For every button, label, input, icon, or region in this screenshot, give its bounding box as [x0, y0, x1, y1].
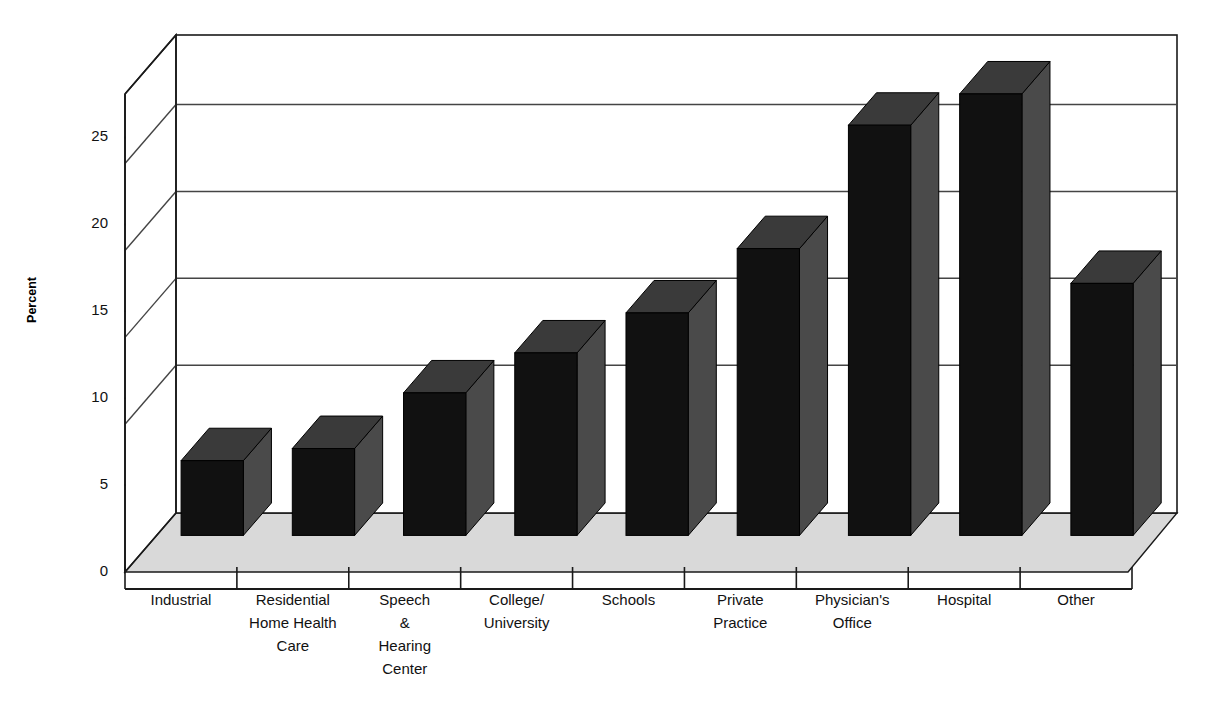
- y-tick-label-2: 10: [91, 388, 108, 405]
- bar-side-face: [688, 280, 716, 535]
- y-tick-label-0: 0: [100, 562, 108, 579]
- bar-side-face: [577, 320, 605, 535]
- x-category-label-0: Industrial: [151, 591, 212, 608]
- x-category-label-3: College/University: [484, 591, 550, 631]
- wall-top-depth-edge: [125, 35, 176, 94]
- bar-2: [404, 360, 494, 535]
- bar-8: [1071, 251, 1161, 535]
- bar-4: [626, 280, 716, 535]
- x-category-label-6: Physician'sOffice: [815, 591, 890, 631]
- bar-6: [848, 93, 938, 536]
- x-category-label-4: Schools: [602, 591, 655, 608]
- bar-7: [960, 61, 1050, 535]
- bar-front-face: [626, 313, 688, 535]
- chart-canvas: 0510152025 IndustrialResidentialHome Hea…: [0, 0, 1210, 703]
- y-tick-labels: 0510152025: [91, 127, 126, 579]
- gridline-depth-1: [125, 278, 176, 337]
- x-category-label-2: Speech&HearingCenter: [378, 591, 431, 677]
- chart-frame: [125, 35, 176, 572]
- gridline-depth-0: [125, 365, 176, 424]
- left-side-panel: [125, 35, 176, 572]
- y-axis-title-text: Percent: [25, 276, 39, 323]
- bar-side-face: [799, 216, 827, 535]
- y-axis-title: Percent: [25, 276, 39, 323]
- bar-1: [292, 416, 382, 535]
- bar-chart-3d: 0510152025 IndustrialResidentialHome Hea…: [0, 0, 1210, 703]
- bar-0: [181, 428, 271, 535]
- bar-side-face: [911, 93, 939, 536]
- x-category-label-8: Other: [1057, 591, 1095, 608]
- gridline-depth-3: [125, 105, 176, 164]
- x-category-label-7: Hospital: [937, 591, 991, 608]
- bar-front-face: [515, 353, 577, 536]
- bar-front-face: [292, 449, 354, 536]
- bar-5: [737, 216, 827, 535]
- bar-front-face: [737, 249, 799, 536]
- y-tick-label-4: 20: [91, 214, 108, 231]
- y-tick-label-3: 15: [91, 301, 108, 318]
- bar-side-face: [1022, 61, 1050, 535]
- x-category-label-1: ResidentialHome HealthCare: [249, 591, 337, 654]
- bar-side-face: [1133, 251, 1161, 535]
- y-tick-label-1: 5: [100, 475, 108, 492]
- bar-front-face: [404, 393, 466, 536]
- bar-front-face: [181, 461, 243, 536]
- gridline-depth-2: [125, 191, 176, 250]
- bar-front-face: [1071, 283, 1133, 535]
- x-category-label-5: PrivatePractice: [713, 591, 767, 631]
- bar-front-face: [848, 125, 910, 535]
- x-tick-labels: IndustrialResidentialHome HealthCareSpee…: [151, 591, 1095, 677]
- bar-3: [515, 320, 605, 535]
- y-tick-label-5: 25: [91, 127, 108, 144]
- bar-front-face: [960, 94, 1022, 535]
